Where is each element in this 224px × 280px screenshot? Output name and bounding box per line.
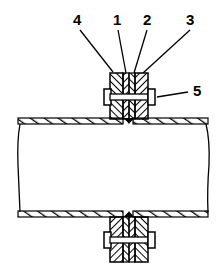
- diagram-canvas: 4 1 2 3 5: [0, 0, 224, 280]
- bolt-shank: [110, 94, 148, 100]
- label-2: 2: [143, 12, 151, 27]
- leader-5: [157, 92, 188, 97]
- pipe-wall-bottom: [18, 211, 208, 217]
- bolt-shank-bottom: [110, 237, 148, 243]
- leader-2: [134, 30, 147, 73]
- label-1: 1: [113, 12, 121, 27]
- label-3: 3: [186, 12, 194, 27]
- bottom-flange-assembly: [104, 217, 155, 262]
- pipe-wall-top: [18, 118, 208, 124]
- leader-4: [80, 30, 113, 72]
- label-5: 5: [193, 83, 201, 98]
- bolt-nut: [148, 89, 155, 105]
- leader-3: [143, 30, 190, 73]
- label-4: 4: [73, 12, 81, 27]
- bolt-nut-bottom: [148, 232, 155, 248]
- flange-joint-drawing: [0, 0, 224, 280]
- top-flange-assembly: [104, 73, 155, 119]
- pipe-break-lines: [18, 124, 209, 212]
- leader-1: [118, 30, 126, 73]
